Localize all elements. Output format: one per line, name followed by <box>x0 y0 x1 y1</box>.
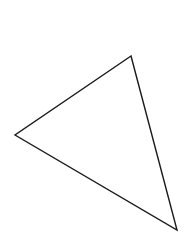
diagram-canvas <box>0 0 186 244</box>
background <box>0 0 186 244</box>
